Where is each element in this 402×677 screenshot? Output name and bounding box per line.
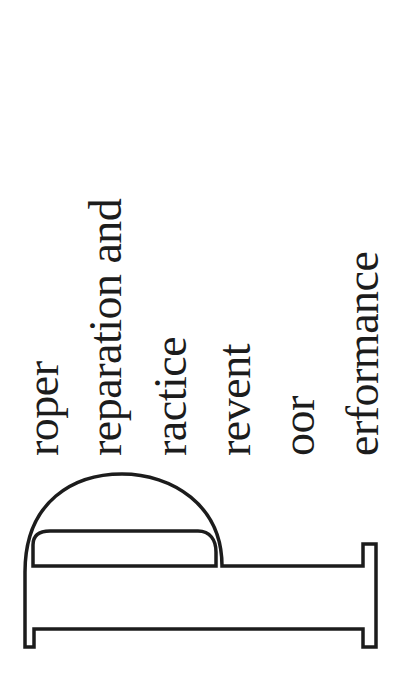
line-ractice: ractice — [148, 337, 194, 456]
line-reparation-and: reparation and — [83, 199, 129, 456]
line-roper: roper — [20, 361, 66, 456]
line-revent: revent — [212, 344, 258, 456]
poster: roper reparation and ractice revent oor … — [0, 0, 402, 677]
line-erformance: erformance — [340, 252, 386, 456]
line-oor: oor — [276, 396, 322, 456]
